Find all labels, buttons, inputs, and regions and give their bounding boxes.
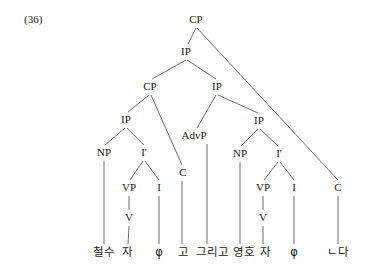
tree-edge — [130, 161, 143, 180]
tree-terminal-t-go: 고 — [178, 246, 189, 258]
tree-terminal-t-ja-1: 자 — [122, 246, 133, 258]
tree-node-ip-3: IP — [121, 114, 131, 125]
tree-edge — [151, 95, 182, 165]
tree-edge — [187, 60, 216, 79]
tree-edge — [280, 162, 294, 180]
tree-edge — [197, 28, 338, 180]
tree-edge — [152, 60, 186, 79]
tree-terminal-t-phi-1: φ — [155, 246, 163, 258]
tree-node-ip-1: IP — [181, 46, 191, 57]
tree-node-c-1: C — [179, 167, 186, 178]
tree-edge — [127, 128, 144, 145]
tree-node-i-2: I — [292, 182, 296, 193]
tree-node-i-1: I — [157, 182, 161, 193]
tree-terminal-t-nda: ㄴ다 — [327, 246, 349, 258]
tree-terminal-t-cheolsu: 철수 — [93, 246, 115, 258]
tree-edge — [197, 95, 216, 128]
tree-node-v-2: V — [259, 212, 267, 223]
tree-edge — [188, 28, 196, 44]
tree-node-cp-2: CP — [143, 81, 156, 92]
tree-edge — [145, 161, 159, 180]
tree-node-vp-2: VP — [256, 182, 270, 193]
tree-node-vp-1: VP — [122, 182, 136, 193]
tree-terminal-t-phi-2: φ — [290, 246, 298, 258]
tree-edge — [128, 95, 149, 112]
tree-edge — [241, 129, 258, 146]
tree-terminal-t-yeongho: 영호 — [233, 246, 255, 258]
syntax-tree-figure: (36) CPIPCPIPIPAdvPIPNPI'NPI'CVPIVPICVV … — [0, 0, 366, 273]
tree-node-advp: AdvP — [181, 130, 206, 141]
tree-terminal-t-ja-2: 자 — [260, 246, 271, 258]
tree-node-np-2: NP — [233, 148, 247, 159]
tree-node-ibar-1: I' — [141, 147, 147, 158]
tree-edge — [264, 162, 278, 180]
tree-edge — [218, 95, 258, 113]
tree-terminal-t-geurigo: 그리고 — [196, 246, 229, 258]
tree-node-ibar-2: I' — [276, 148, 282, 159]
tree-node-np-1: NP — [97, 147, 111, 158]
tree-edge — [128, 226, 129, 244]
tree-node-c-2: C — [334, 182, 341, 193]
tree-node-cp-root: CP — [189, 14, 202, 25]
tree-node-v-1: V — [125, 212, 133, 223]
tree-edge — [260, 129, 278, 146]
tree-node-ip-4: IP — [254, 115, 264, 126]
tree-node-ip-2: IP — [212, 81, 222, 92]
tree-edge — [105, 128, 125, 145]
